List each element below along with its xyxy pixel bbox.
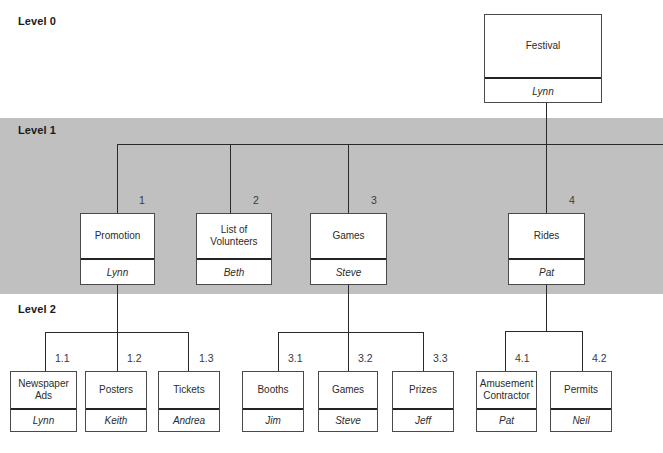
wbs-node-title: Promotion (81, 214, 154, 258)
wbs-code-1-3: 1.3 (199, 352, 214, 364)
connector-root-drop (546, 103, 547, 214)
wbs-code-4: 4 (569, 194, 575, 206)
wbs-node-booths[interactable]: Booths Jim (242, 371, 304, 432)
wbs-node-newspaper-ads[interactable]: Newspaper Ads Lynn (10, 371, 77, 432)
wbs-node-owner: Steve (319, 410, 377, 431)
wbs-code-3: 3 (371, 194, 377, 206)
wbs-code-1-2: 1.2 (127, 352, 142, 364)
wbs-node-rides[interactable]: Rides Pat (508, 213, 585, 285)
wbs-node-title: Amusement Contractor (477, 372, 536, 408)
wbs-node-owner: Jim (243, 410, 303, 431)
connector-group1-child2 (117, 332, 118, 371)
wbs-code-1-1: 1.1 (55, 352, 70, 364)
connector-group4-child1 (505, 331, 506, 371)
wbs-node-owner: Lynn (11, 410, 76, 431)
wbs-node-owner: Lynn (81, 260, 154, 284)
wbs-code-1: 1 (139, 194, 145, 206)
wbs-node-permits[interactable]: Permits Neil (550, 371, 612, 432)
wbs-node-owner: Keith (86, 410, 146, 431)
wbs-node-owner: Pat (509, 260, 584, 284)
connector-level1-bus (117, 144, 663, 145)
wbs-node-title: Newspaper Ads (11, 372, 76, 408)
wbs-code-3-3: 3.3 (433, 352, 448, 364)
connector-level1-2 (230, 144, 231, 213)
wbs-diagram: Level 0 Level 1 Level 2 Festival Lynn 1 … (0, 0, 663, 453)
wbs-code-2: 2 (253, 194, 259, 206)
wbs-node-festival[interactable]: Festival Lynn (484, 14, 602, 103)
wbs-node-title: List of Volunteers (197, 214, 271, 258)
wbs-code-3-1: 3.1 (288, 352, 303, 364)
wbs-node-owner: Lynn (485, 79, 601, 104)
wbs-node-games[interactable]: Games Steve (310, 213, 387, 285)
connector-group4-bus (505, 331, 583, 332)
wbs-node-promotion[interactable]: Promotion Lynn (80, 213, 155, 285)
wbs-node-title: Booths (243, 372, 303, 408)
level1-label: Level 1 (18, 124, 56, 136)
connector-group1-drop (117, 285, 118, 332)
level0-label: Level 0 (18, 15, 56, 27)
wbs-node-title: Games (311, 214, 386, 258)
connector-group1-child3 (188, 332, 189, 371)
wbs-node-title: Festival (485, 15, 601, 77)
connector-group3-child1 (278, 332, 279, 371)
connector-group3-bus (278, 332, 424, 333)
connector-group4-drop (546, 285, 547, 331)
wbs-node-posters[interactable]: Posters Keith (85, 371, 147, 432)
connector-group3-child3 (423, 332, 424, 371)
wbs-code-4-2: 4.2 (592, 352, 607, 364)
connector-group4-child2 (582, 331, 583, 371)
wbs-node-amusement-contractor[interactable]: Amusement Contractor Pat (476, 371, 537, 432)
wbs-code-3-2: 3.2 (358, 352, 373, 364)
wbs-node-title: Tickets (159, 372, 219, 408)
wbs-code-4-1: 4.1 (515, 352, 530, 364)
wbs-node-title: Permits (551, 372, 611, 408)
wbs-node-owner: Jeff (393, 410, 453, 431)
wbs-node-games-level2[interactable]: Games Steve (318, 371, 378, 432)
connector-group3-drop (348, 285, 349, 332)
wbs-node-owner: Steve (311, 260, 386, 284)
connector-level1-3 (348, 144, 349, 213)
wbs-node-owner: Pat (477, 410, 536, 431)
wbs-node-owner: Neil (551, 410, 611, 431)
wbs-node-prizes[interactable]: Prizes Jeff (392, 371, 454, 432)
wbs-node-list-of-volunteers[interactable]: List of Volunteers Beth (196, 213, 272, 285)
wbs-node-title: Posters (86, 372, 146, 408)
wbs-node-title: Games (319, 372, 377, 408)
wbs-node-tickets[interactable]: Tickets Andrea (158, 371, 220, 432)
wbs-node-title: Prizes (393, 372, 453, 408)
wbs-node-title: Rides (509, 214, 584, 258)
wbs-node-owner: Andrea (159, 410, 219, 431)
connector-level1-1 (117, 144, 118, 213)
wbs-node-owner: Beth (197, 260, 271, 284)
level2-label: Level 2 (18, 303, 56, 315)
connector-group3-child2 (348, 332, 349, 371)
connector-group1-child1 (45, 332, 46, 371)
